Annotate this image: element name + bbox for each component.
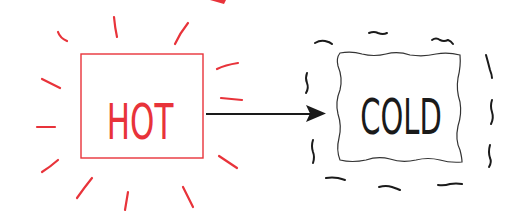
hot-label: HOT	[107, 92, 174, 151]
hot-to-cold-diagram: HOT COLD	[0, 0, 511, 218]
arrow	[206, 105, 326, 122]
top-red-shape	[210, 0, 226, 4]
cold-label: COLD	[360, 88, 442, 147]
diagram-canvas: HOT COLD	[0, 0, 511, 218]
